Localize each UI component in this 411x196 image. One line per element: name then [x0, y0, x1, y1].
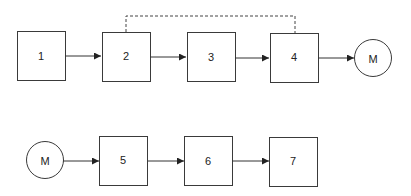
node-6: 6	[185, 137, 233, 186]
node-m-bottom-label: M	[40, 155, 49, 167]
node-2-label: 2	[123, 50, 129, 62]
node-3: 3	[188, 33, 236, 82]
node-7-label: 7	[290, 155, 296, 167]
node-5: 5	[100, 137, 148, 186]
node-2: 2	[103, 33, 151, 82]
dashed-connector-2-4	[126, 16, 295, 33]
node-1-label: 1	[38, 50, 44, 62]
node-4-label: 4	[291, 51, 297, 63]
node-7: 7	[270, 138, 318, 187]
node-m-bottom: M	[27, 142, 64, 179]
flow-diagram: 1 2 3 4 M M 5 6 7	[0, 0, 411, 196]
node-6-label: 6	[205, 155, 211, 167]
node-m-top-label: M	[368, 53, 377, 65]
node-1: 1	[18, 32, 66, 81]
node-3-label: 3	[208, 51, 214, 63]
node-4: 4	[271, 34, 319, 83]
node-m-top: M	[355, 40, 392, 77]
node-5-label: 5	[120, 154, 126, 166]
